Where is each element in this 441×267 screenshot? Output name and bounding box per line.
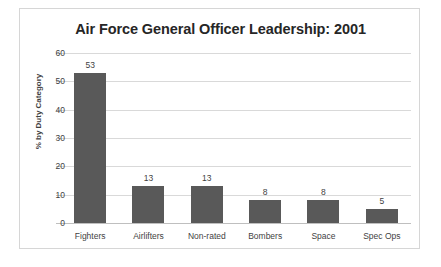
bar-group: 8Bombers	[236, 53, 294, 223]
bar-value-label: 53	[85, 60, 94, 70]
x-category-label: Non-rated	[188, 231, 226, 241]
bar[interactable]	[307, 200, 339, 223]
bar[interactable]	[132, 186, 164, 223]
bar-value-label: 13	[202, 173, 211, 183]
bar[interactable]	[191, 186, 223, 223]
plot-area: 010203040506053Fighters13Airlifters13Non…	[61, 53, 411, 223]
bar-group: 53Fighters	[61, 53, 119, 223]
x-category-label: Airlifters	[133, 231, 164, 241]
bar[interactable]	[366, 209, 398, 223]
y-tick-label: 60	[25, 48, 65, 58]
bar-value-label: 8	[321, 187, 326, 197]
bar-value-label: 5	[379, 196, 384, 206]
bar[interactable]	[249, 200, 281, 223]
bar-group: 5Spec Ops	[353, 53, 411, 223]
y-tick-label: 10	[25, 190, 65, 200]
bar[interactable]	[74, 73, 106, 223]
x-category-label: Fighters	[75, 231, 106, 241]
chart-frame: Air Force General Officer Leadership: 20…	[19, 8, 420, 249]
y-tick-label: 50	[25, 76, 65, 86]
x-category-label: Bombers	[248, 231, 282, 241]
axis-baseline	[61, 223, 411, 224]
bar-group: 13Airlifters	[119, 53, 177, 223]
y-tick-label: 40	[25, 105, 65, 115]
bar-group: 8Space	[294, 53, 352, 223]
y-tick-label: 0	[25, 218, 65, 228]
bar-value-label: 13	[144, 173, 153, 183]
bar-group: 13Non-rated	[178, 53, 236, 223]
x-category-label: Space	[311, 231, 335, 241]
bar-value-label: 8	[263, 187, 268, 197]
chart-title: Air Force General Officer Leadership: 20…	[20, 21, 421, 37]
y-tick-label: 20	[25, 161, 65, 171]
x-category-label: Spec Ops	[363, 231, 400, 241]
y-tick-label: 30	[25, 133, 65, 143]
